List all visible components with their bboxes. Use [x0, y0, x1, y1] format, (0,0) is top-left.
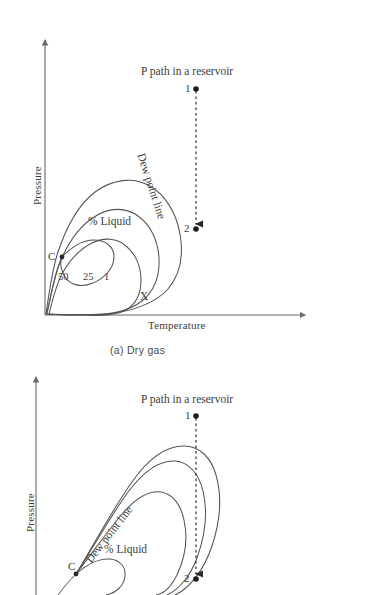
- curve-dew-point-line: [76, 446, 219, 595]
- panel-a-caption: (a) Dry gas: [110, 344, 165, 356]
- quality-label-50: 50: [58, 272, 69, 283]
- curve-bubble-point-tail: [58, 574, 76, 595]
- path-point-1-label: 1: [185, 83, 191, 94]
- path-point-2-marker: [193, 576, 199, 582]
- path-point-2-label: 2: [184, 573, 190, 584]
- panel-second-fluid: Pressure P path in a reservoir 1 2 Dew p…: [0, 362, 365, 595]
- reservoir-state-label: X: [140, 291, 148, 303]
- critical-point-marker: [60, 255, 65, 260]
- path-point-2-label: 2: [184, 223, 190, 234]
- panel-a-graphic: [0, 0, 365, 362]
- pressure-path-title: P path in a reservoir: [141, 394, 233, 406]
- quality-label-1: 1: [104, 272, 109, 283]
- y-axis-label: Pressure: [25, 493, 36, 532]
- critical-point-label: C: [48, 251, 55, 262]
- path-point-2-marker: [193, 226, 199, 232]
- percent-liquid-label: % Liquid: [104, 544, 147, 556]
- percent-liquid-label: % Liquid: [88, 216, 131, 228]
- path-point-1-marker: [193, 86, 199, 92]
- quality-label-25: 25: [83, 272, 94, 283]
- x-axis-label: Temperature: [148, 320, 206, 331]
- critical-point-label: C: [68, 561, 75, 572]
- path-point-1-label: 1: [185, 410, 191, 421]
- phase-diagram-figure: Pressure Temperature P path in a reservo…: [0, 0, 365, 595]
- path-point-1-marker: [193, 413, 199, 419]
- y-axis-label: Pressure: [32, 166, 43, 205]
- pressure-path-title: P path in a reservoir: [141, 66, 233, 78]
- critical-point-marker: [74, 572, 79, 577]
- panel-dry-gas: Pressure Temperature P path in a reservo…: [0, 0, 365, 362]
